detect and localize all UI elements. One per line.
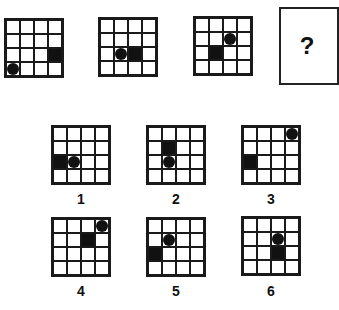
square-icon (271, 246, 285, 260)
square-icon (162, 141, 176, 155)
square-icon (128, 47, 142, 61)
grid-cell (237, 18, 251, 32)
option-label-5: 5 (146, 283, 206, 299)
circle-icon (67, 155, 81, 169)
circle-icon (162, 155, 176, 169)
square-icon (243, 155, 257, 169)
square-icon (209, 46, 223, 60)
option-grid-6[interactable] (241, 216, 301, 276)
grid-cell (285, 260, 299, 274)
grid-cell (243, 141, 257, 155)
grid-cell (285, 141, 299, 155)
grid-cell (142, 33, 156, 47)
grid-cell (53, 233, 67, 247)
grid-cell (162, 219, 176, 233)
option-grid-4[interactable] (51, 217, 111, 277)
grid-cell (67, 233, 81, 247)
grid-cell (81, 155, 95, 169)
grid-cell (34, 62, 48, 76)
grid-cell (148, 261, 162, 275)
grid-cell (81, 141, 95, 155)
grid-cell (257, 260, 271, 274)
grid-cell (190, 169, 204, 183)
circle-icon (95, 219, 109, 233)
grid-cell (176, 127, 190, 141)
grid-cell (53, 219, 67, 233)
grid-cell (190, 233, 204, 247)
grid-cell (285, 169, 299, 183)
grid-cell (176, 141, 190, 155)
grid-cell (6, 34, 20, 48)
grid-cell (100, 19, 114, 33)
grid-cell (67, 261, 81, 275)
option-grid-1[interactable] (51, 125, 111, 185)
grid-cell (176, 261, 190, 275)
grid-cell (34, 48, 48, 62)
option-grid-3[interactable] (241, 125, 301, 185)
grid-cell (53, 169, 67, 183)
grid-cell (223, 60, 237, 74)
grid-cell (257, 127, 271, 141)
option-label-2: 2 (146, 191, 206, 207)
grid-cell (148, 127, 162, 141)
grid-cell (95, 247, 109, 261)
grid-cell (81, 247, 95, 261)
grid-cell (209, 32, 223, 46)
grid-cell (20, 34, 34, 48)
circle-icon (6, 62, 20, 76)
grid-cell (128, 61, 142, 75)
grid-cell (95, 261, 109, 275)
grid-cell (114, 19, 128, 33)
grid-cell (142, 19, 156, 33)
option-grid-2[interactable] (146, 125, 206, 185)
grid-cell (223, 46, 237, 60)
grid-cell (243, 232, 257, 246)
grid-cell (95, 233, 109, 247)
square-icon (81, 233, 95, 247)
circle-icon (114, 47, 128, 61)
grid-cell (162, 247, 176, 261)
grid-cell (67, 127, 81, 141)
grid-cell (243, 127, 257, 141)
grid-cell (195, 46, 209, 60)
grid-cell (195, 18, 209, 32)
grid-cell (176, 233, 190, 247)
option-label-1: 1 (51, 191, 111, 207)
grid-cell (162, 169, 176, 183)
grid-cell (237, 32, 251, 46)
grid-cell (148, 219, 162, 233)
grid-cell (271, 155, 285, 169)
grid-cell (6, 48, 20, 62)
grid-cell (81, 169, 95, 183)
sequence-grid-2 (98, 17, 158, 77)
grid-cell (81, 127, 95, 141)
grid-cell (257, 232, 271, 246)
grid-cell (257, 155, 271, 169)
grid-cell (190, 155, 204, 169)
grid-cell (237, 46, 251, 60)
circle-icon (271, 232, 285, 246)
grid-cell (128, 19, 142, 33)
grid-cell (257, 246, 271, 260)
grid-cell (48, 34, 62, 48)
grid-cell (195, 60, 209, 74)
grid-cell (148, 155, 162, 169)
grid-cell (142, 47, 156, 61)
grid-cell (142, 61, 156, 75)
grid-cell (243, 246, 257, 260)
grid-cell (100, 33, 114, 47)
grid-cell (53, 247, 67, 261)
grid-cell (114, 61, 128, 75)
grid-cell (81, 261, 95, 275)
grid-cell (81, 219, 95, 233)
grid-cell (285, 246, 299, 260)
grid-cell (148, 233, 162, 247)
grid-cell (48, 20, 62, 34)
grid-cell (128, 33, 142, 47)
option-grid-5[interactable] (146, 217, 206, 277)
square-icon (53, 155, 67, 169)
grid-cell (20, 20, 34, 34)
grid-cell (162, 261, 176, 275)
question-mark: ? (300, 32, 315, 60)
grid-cell (190, 247, 204, 261)
